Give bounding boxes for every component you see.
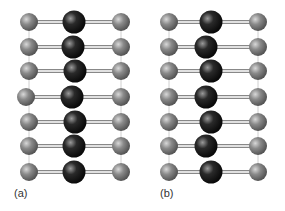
central-atom	[200, 11, 223, 34]
central-atom	[200, 60, 223, 83]
outer-atom-left	[160, 13, 178, 31]
central-atom	[63, 135, 86, 158]
central-atom	[61, 86, 84, 109]
central-atom	[200, 161, 223, 184]
outer-atom-left	[160, 88, 178, 106]
outer-atom-right	[112, 163, 130, 181]
outer-atom-right	[249, 38, 267, 56]
outer-atom-left	[20, 38, 38, 56]
central-atom	[63, 161, 86, 184]
molecular-chain-diagram: (a) (b)	[0, 0, 285, 211]
outer-atom-right	[112, 38, 130, 56]
outer-atom-left	[17, 88, 35, 106]
outer-atom-left	[160, 38, 178, 56]
panel-b	[160, 11, 267, 184]
outer-atom-right	[249, 13, 267, 31]
central-atom	[200, 111, 223, 134]
outer-atom-left	[20, 13, 38, 31]
outer-atom-right	[249, 163, 267, 181]
outer-atom-left	[20, 137, 38, 155]
outer-atom-right	[112, 13, 130, 31]
panel-b-label: (b)	[160, 187, 173, 199]
outer-atom-right	[112, 137, 130, 155]
outer-atom-right	[249, 137, 267, 155]
central-atom	[63, 11, 86, 34]
outer-atom-left	[160, 62, 178, 80]
outer-atom-left	[20, 62, 38, 80]
central-atom	[64, 60, 87, 83]
outer-atom-left	[20, 163, 38, 181]
outer-atom-left	[160, 137, 178, 155]
outer-atom-right	[112, 113, 130, 131]
central-atom	[195, 86, 218, 109]
outer-atom-right	[249, 113, 267, 131]
central-atom	[195, 36, 218, 59]
outer-atom-left	[20, 113, 38, 131]
central-atom	[195, 135, 218, 158]
central-atom	[64, 111, 87, 134]
central-atom	[62, 36, 85, 59]
outer-atom-right	[249, 62, 267, 80]
outer-atom-left	[160, 113, 178, 131]
panel-a	[17, 11, 130, 184]
outer-atom-right	[112, 88, 130, 106]
panel-a-label: (a)	[14, 187, 27, 199]
outer-atom-right	[249, 88, 267, 106]
outer-atom-left	[160, 163, 178, 181]
outer-atom-right	[112, 62, 130, 80]
